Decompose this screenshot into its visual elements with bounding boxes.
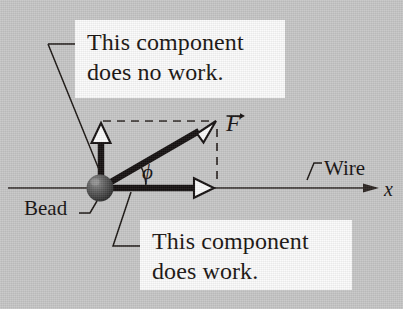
vector-fy-arrowhead-icon: [92, 123, 111, 143]
vector-overbar-icon: [226, 112, 245, 120]
label-axis-x: x: [384, 178, 393, 201]
callout-does-work: This component does work.: [140, 220, 352, 290]
label-angle-phi: ϕ: [142, 160, 153, 185]
bead-body: [87, 175, 114, 202]
callout-no-work: This component does no work.: [75, 20, 285, 98]
vector-f: [104, 121, 216, 186]
bead-sphere: [87, 175, 114, 202]
vector-fx-arrowhead-icon: [194, 178, 214, 198]
callout-does-work-line1: This component: [152, 226, 352, 256]
vector-f-arrowhead-icon: [197, 121, 216, 143]
callout-no-work-line2: does no work.: [87, 57, 285, 87]
label-wire: Wire: [324, 156, 365, 181]
axis-arrow-icon: [363, 183, 379, 192]
label-force-vector: F: [226, 110, 241, 137]
callout-does-work-line2: does work.: [152, 256, 352, 286]
callout-no-work-line1: This component: [87, 27, 285, 57]
label-bead: Bead: [24, 196, 67, 221]
figure-canvas: This component does no work. This compon…: [0, 0, 403, 309]
leader-bead: [79, 201, 97, 213]
bead-highlight: [90, 179, 99, 186]
leader-wire: [307, 163, 322, 180]
